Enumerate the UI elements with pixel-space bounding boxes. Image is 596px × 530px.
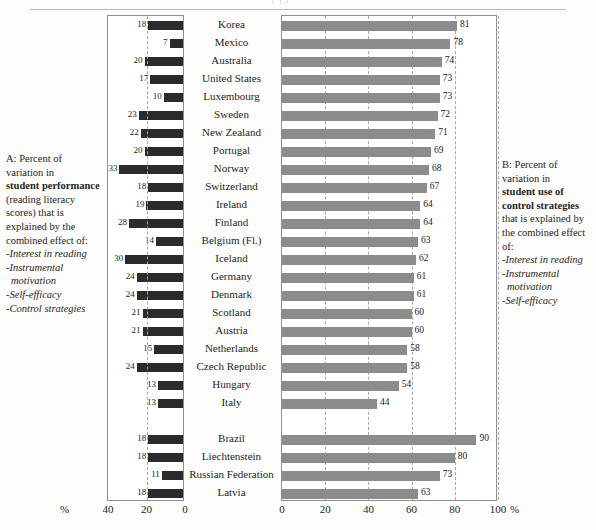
bar-a-Iceland <box>125 255 183 264</box>
bar-b-Liechtenstein <box>282 453 455 463</box>
bar-a-Hungary <box>158 381 183 390</box>
bar-row-b: 44 <box>282 394 496 413</box>
axis-tick-a-20: 20 <box>141 503 152 515</box>
bar-b-Portugal <box>282 147 431 157</box>
caption-a-bullet-2: motivation <box>6 274 102 288</box>
bar-value-b: 81 <box>460 19 470 29</box>
bar-row-a: 30 <box>108 250 183 269</box>
bar-value-a: 24 <box>126 361 135 371</box>
category-label: Denmark <box>186 285 277 304</box>
bar-row-b: 73 <box>282 70 496 89</box>
bar-b-Sweden <box>282 111 438 121</box>
bar-value-a: 21 <box>132 307 141 317</box>
bar-a-Liechtenstein <box>148 453 183 462</box>
bar-value-a: 7 <box>163 37 168 47</box>
bar-b-Belgium (Fl.) <box>282 237 418 247</box>
bar-b-Hungary <box>282 381 399 391</box>
caption-b-line2: variation in <box>502 172 594 186</box>
bar-value-b: 60 <box>415 325 425 335</box>
bar-b-Austria <box>282 327 412 337</box>
bar-b-Switzerland <box>282 183 427 193</box>
bar-a-Finland <box>129 219 183 228</box>
bar-value-b: 61 <box>417 289 427 299</box>
bar-row-a: 18 <box>108 484 183 503</box>
category-label: Netherlands <box>186 339 277 358</box>
bar-value-b: 90 <box>479 433 489 443</box>
gridline-b-100 <box>498 16 500 500</box>
bar-b-Ireland <box>282 201 420 211</box>
x-axis-b: 020406080100% <box>272 503 592 519</box>
bar-value-a: 10 <box>153 91 162 101</box>
bar-b-Denmark <box>282 291 414 301</box>
bar-row-a: 33 <box>108 160 183 179</box>
caption-b-bullet-1: -Instrumental <box>502 267 594 281</box>
category-label: Sweden <box>186 105 277 124</box>
category-label: Italy <box>186 393 277 412</box>
bar-b-Mexico <box>282 39 450 49</box>
caption-a-bullet-1: -Instrumental <box>6 261 102 275</box>
bar-value-b: 61 <box>417 271 427 281</box>
bar-value-b: 73 <box>443 91 453 101</box>
bar-row-a: 18 <box>108 16 183 35</box>
bar-row-b: 74 <box>282 52 496 71</box>
category-label: Ireland <box>186 195 277 214</box>
bar-a-Australia <box>145 57 184 66</box>
category-label: Brazil <box>186 429 277 448</box>
bar-row-b: 64 <box>282 214 496 233</box>
bar-b-Czech Republic <box>282 363 407 373</box>
bar-rows-b: 8178747373727169686764646362616160605858… <box>282 16 496 500</box>
category-label: Mexico <box>186 33 277 52</box>
bar-value-a: 18 <box>137 451 146 461</box>
bar-value-b: 68 <box>432 163 442 173</box>
bar-b-Norway <box>282 165 429 175</box>
bar-row-b: 80 <box>282 448 496 467</box>
category-label: Russian Federation <box>186 465 277 484</box>
bar-row-a: 17 <box>108 70 183 89</box>
plot-area-a: 1872017102322203318192814302424212115241… <box>107 15 184 501</box>
bar-row-a <box>108 412 183 431</box>
bar-b-Iceland <box>282 255 416 265</box>
caption-panel-a: A: Percent of variation in student perfo… <box>6 152 102 315</box>
bar-value-b: 71 <box>438 127 448 137</box>
bar-value-b: 54 <box>402 379 412 389</box>
bar-value-b: 80 <box>458 451 468 461</box>
bar-a-United States <box>150 75 183 84</box>
bar-row-a: 24 <box>108 358 183 377</box>
bar-row-a: 11 <box>108 466 183 485</box>
bar-row-a: 24 <box>108 286 183 305</box>
bar-a-Netherlands <box>154 345 183 354</box>
bar-a-Latvia <box>148 489 183 498</box>
bar-a-Denmark <box>137 291 183 300</box>
bar-b-Scotland <box>282 309 412 319</box>
bar-a-Germany <box>137 273 183 282</box>
x-axis-a: %40200 <box>60 503 190 519</box>
bar-row-b: 58 <box>282 340 496 359</box>
bar-value-a: 28 <box>118 217 127 227</box>
bar-value-a: 11 <box>151 469 160 479</box>
bar-row-a: 7 <box>108 34 183 53</box>
caption-a-tail: (reading literacy scores) that is explai… <box>6 193 102 247</box>
bar-value-a: 18 <box>137 487 146 497</box>
bar-row-b: 58 <box>282 358 496 377</box>
bar-value-b: 74 <box>445 55 455 65</box>
category-label: Iceland <box>186 249 277 268</box>
category-label: Liechtenstein <box>186 447 277 466</box>
bar-row-a: 18 <box>108 430 183 449</box>
bar-row-b: 71 <box>282 124 496 143</box>
bar-value-a: 33 <box>108 163 117 173</box>
bar-row-a: 21 <box>108 304 183 323</box>
bar-value-b: 72 <box>441 109 451 119</box>
category-label: Germany <box>186 267 277 286</box>
caption-a-bullet-4: -Control strategies <box>6 302 102 316</box>
bar-value-b: 63 <box>421 487 431 497</box>
axis-tick-b-40: 40 <box>363 503 374 515</box>
bar-a-Mexico <box>170 39 183 48</box>
axis-tick-b-20: 20 <box>320 503 331 515</box>
caption-b-bullet-2: motivation <box>502 280 594 294</box>
axis-tick-b-0: 0 <box>279 503 285 515</box>
bar-b-United States <box>282 75 440 85</box>
caption-a-bullet-3: -Self-efficacy <box>6 288 102 302</box>
caption-a-bullet-0: -Interest in reading <box>6 247 102 261</box>
category-label: Hungary <box>186 375 277 394</box>
bar-row-a: 21 <box>108 322 183 341</box>
